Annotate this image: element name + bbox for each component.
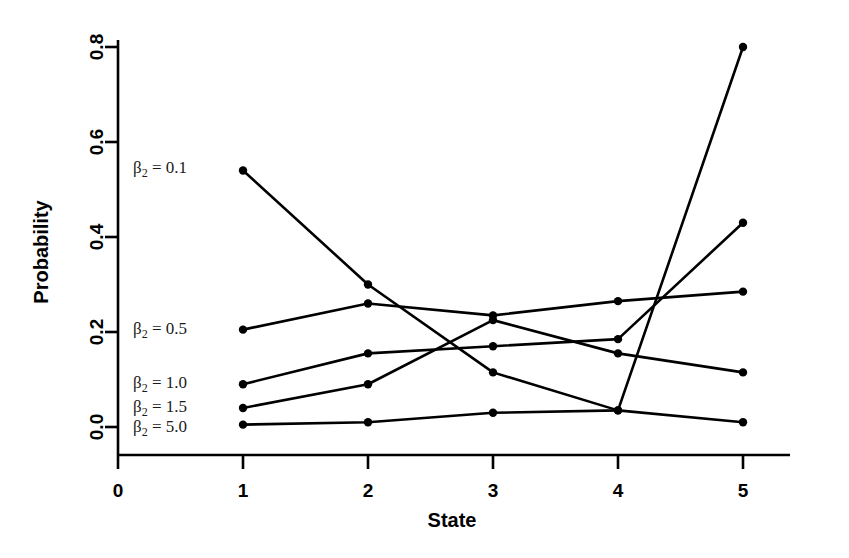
beta-symbol: β: [133, 158, 142, 177]
series-label-beta-0.1: β2 = 0.1: [133, 158, 187, 180]
y-axis-ticks: [105, 47, 118, 427]
data-point-beta-1.5: [489, 316, 497, 324]
y-axis-title: Probability: [30, 199, 52, 303]
series-label-value: = 5.0: [148, 417, 187, 436]
data-point-beta-1.5: [239, 404, 247, 412]
x-axis-group: 012345 State: [113, 455, 790, 531]
series-label-value: = 0.1: [148, 158, 187, 177]
data-point-beta-5.0: [614, 406, 622, 414]
data-point-beta-0.5: [739, 287, 747, 295]
beta-symbol: β: [133, 373, 142, 392]
series-label-beta-1.5: β2 = 1.5: [133, 397, 187, 419]
y-axis-group: 0.00.20.40.60.8 Probability: [30, 34, 118, 455]
chart-figure: 0.00.20.40.60.8 Probability 012345 State…: [0, 0, 849, 558]
series-label-value: = 1.0: [148, 373, 187, 392]
data-point-beta-1.5: [364, 380, 372, 388]
data-point-beta-1.0: [614, 335, 622, 343]
series-label-value: = 1.5: [148, 397, 187, 416]
data-point-beta-5.0: [489, 409, 497, 417]
series-line-beta-5.0: [243, 47, 743, 425]
data-point-beta-0.5: [239, 325, 247, 333]
series-lines-group: [243, 47, 743, 425]
beta-symbol: β: [133, 397, 142, 416]
beta-symbol: β: [133, 417, 142, 436]
x-axis-tick-labels: 012345: [113, 480, 749, 501]
probability-line-chart: 0.00.20.40.60.8 Probability 012345 State…: [0, 0, 849, 558]
data-point-beta-0.1: [489, 368, 497, 376]
data-point-beta-1.5: [739, 368, 747, 376]
series-line-beta-1.5: [243, 320, 743, 408]
series-labels-group: β2 = 0.1β2 = 0.5β2 = 1.0β2 = 1.5β2 = 5.0: [133, 158, 187, 439]
y-tick-label: 0.0: [86, 414, 107, 440]
y-tick-label: 0.4: [86, 223, 107, 250]
data-point-beta-1.0: [239, 380, 247, 388]
x-tick-label: 2: [363, 480, 374, 501]
x-tick-label: 3: [488, 480, 499, 501]
data-point-beta-0.5: [614, 297, 622, 305]
y-tick-label: 0.8: [86, 34, 107, 60]
data-point-beta-0.5: [364, 299, 372, 307]
y-tick-label: 0.6: [86, 129, 107, 155]
data-point-beta-1.0: [489, 342, 497, 350]
data-point-beta-5.0: [364, 418, 372, 426]
data-point-beta-5.0: [239, 420, 247, 428]
x-axis-ticks: [118, 455, 743, 469]
series-label-beta-1.0: β2 = 1.0: [133, 373, 187, 395]
x-tick-label: 5: [738, 480, 749, 501]
series-label-beta-5.0: β2 = 5.0: [133, 417, 187, 439]
y-axis-tick-labels: 0.00.20.40.60.8: [86, 34, 107, 440]
y-tick-label: 0.2: [86, 319, 107, 345]
series-label-value: = 0.5: [148, 319, 187, 338]
data-point-beta-1.5: [614, 349, 622, 357]
beta-symbol: β: [133, 319, 142, 338]
x-tick-label: 0: [113, 480, 124, 501]
x-axis-title: State: [428, 509, 477, 531]
data-point-beta-5.0: [739, 43, 747, 51]
data-point-beta-1.0: [364, 349, 372, 357]
x-tick-label: 4: [613, 480, 624, 501]
data-point-beta-1.0: [739, 219, 747, 227]
data-point-beta-0.1: [239, 166, 247, 174]
series-label-beta-0.5: β2 = 0.5: [133, 319, 187, 341]
x-tick-label: 1: [238, 480, 249, 501]
data-point-beta-0.1: [364, 280, 372, 288]
data-point-beta-0.1: [739, 418, 747, 426]
